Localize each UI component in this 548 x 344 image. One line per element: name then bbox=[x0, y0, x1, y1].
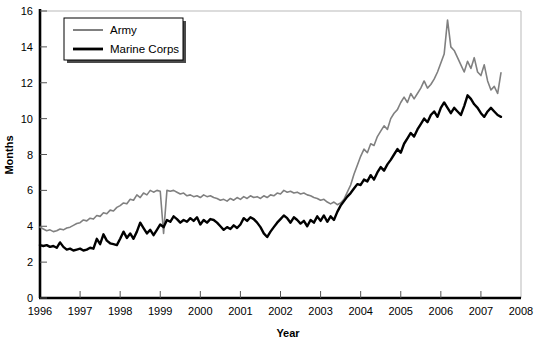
y-tick-label: 0 bbox=[27, 292, 33, 304]
x-tick-label: 2003 bbox=[308, 305, 332, 317]
x-tick-label: 1998 bbox=[108, 305, 132, 317]
chart-figure: 0246810121416 19961997199819992000200120… bbox=[0, 0, 548, 344]
y-tick-label: 2 bbox=[27, 256, 33, 268]
x-tick-label: 2006 bbox=[429, 305, 453, 317]
x-tick-label: 2002 bbox=[268, 305, 292, 317]
x-tick-label: 1999 bbox=[148, 305, 172, 317]
x-tick-label: 1997 bbox=[68, 305, 92, 317]
y-axis-label: Months bbox=[3, 135, 15, 174]
x-axis-label: Year bbox=[276, 327, 300, 339]
y-axis-ticks: 0246810121416 bbox=[21, 5, 47, 304]
y-tick-label: 6 bbox=[27, 184, 33, 196]
legend-label-army: Army bbox=[110, 24, 137, 36]
y-tick-label: 4 bbox=[27, 220, 33, 232]
y-tick-label: 14 bbox=[21, 41, 33, 53]
x-tick-label: 2000 bbox=[188, 305, 212, 317]
legend-label-marine-corps: Marine Corps bbox=[110, 43, 179, 55]
x-axis-ticks: 1996199719981999200020012002200320042005… bbox=[28, 291, 533, 317]
line-chart: 0246810121416 19961997199819992000200120… bbox=[0, 0, 548, 344]
chart-legend: Army Marine Corps bbox=[64, 18, 186, 63]
x-tick-label: 1996 bbox=[28, 305, 52, 317]
x-tick-label: 2004 bbox=[348, 305, 372, 317]
y-tick-label: 8 bbox=[27, 149, 33, 161]
x-tick-label: 2005 bbox=[389, 305, 413, 317]
y-tick-label: 10 bbox=[21, 113, 33, 125]
series-line-marine-corps bbox=[40, 95, 501, 250]
x-tick-label: 2007 bbox=[469, 305, 493, 317]
y-tick-label: 16 bbox=[21, 5, 33, 17]
y-tick-label: 12 bbox=[21, 77, 33, 89]
x-tick-label: 2001 bbox=[228, 305, 252, 317]
x-tick-label: 2008 bbox=[509, 305, 533, 317]
